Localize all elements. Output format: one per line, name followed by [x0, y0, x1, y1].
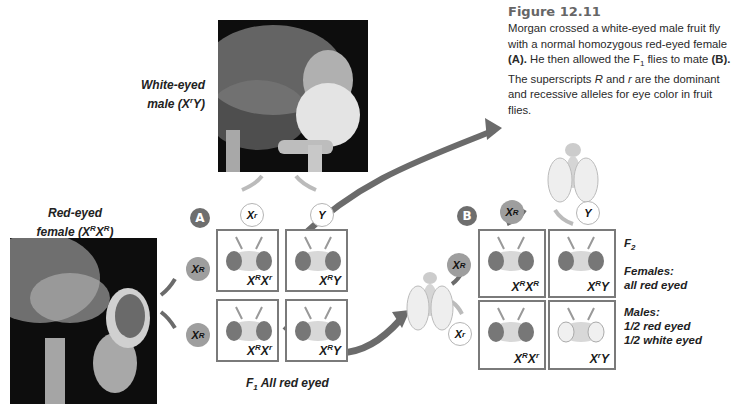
- genotype: XRY: [319, 273, 341, 288]
- genotype: XRXR: [511, 279, 539, 294]
- allele-circle-red: XR: [186, 257, 210, 281]
- genotype: XRXr: [514, 351, 539, 366]
- label-line: all red eyed: [624, 278, 687, 292]
- punnett-cell-a4: XRY: [285, 299, 348, 362]
- fly-head-red-icon: [224, 305, 274, 345]
- f2-label: F2: [624, 236, 635, 255]
- label-line: 1/2 red eyed: [624, 319, 702, 333]
- fly-head-red-icon: [556, 235, 606, 275]
- punnett-cell-a3: XRXr: [216, 299, 279, 362]
- allele-circle-red: XR: [186, 323, 210, 347]
- punnett-cell-b4: XrY: [548, 300, 616, 370]
- allele-circle-white: Xr: [448, 322, 472, 346]
- punnett-cell-b2: XRY: [548, 229, 616, 298]
- fly-head-red-icon: [293, 305, 343, 345]
- genotype: XRY: [587, 279, 609, 294]
- allele-circle-white: Xr: [240, 203, 264, 227]
- allele-circle-red: XR: [500, 200, 524, 224]
- fly-head-red-icon: [486, 235, 536, 275]
- allele-circle-white: Y: [310, 203, 334, 227]
- genotype: XRXr: [247, 343, 272, 358]
- cross-a-badge: A: [190, 208, 210, 228]
- f1-fly-icon: [405, 262, 455, 340]
- label-line: Males:: [624, 305, 702, 319]
- fly-head-red-icon: [293, 235, 343, 275]
- genotype: XrY: [590, 351, 609, 366]
- f1-result-label: F1 All red eyed: [246, 376, 329, 395]
- fly-head-white-icon: [556, 306, 606, 346]
- genotype: XRY: [319, 343, 341, 358]
- f1-fly-icon: [545, 132, 601, 212]
- f2-females-result: Females: all red eyed: [624, 264, 687, 292]
- allele-circle-red: XR: [447, 253, 471, 277]
- f2-males-result: Males: 1/2 red eyed 1/2 white eyed: [624, 305, 702, 347]
- fly-head-red-icon: [486, 306, 536, 346]
- label-line: Females:: [624, 264, 687, 278]
- label-line: 1/2 white eyed: [624, 333, 702, 347]
- genotype: XRXr: [247, 273, 272, 288]
- punnett-cell-a1: XRXr: [216, 229, 279, 292]
- cross-b-badge: B: [457, 206, 477, 226]
- punnett-cell-b1: XRXR: [478, 229, 546, 298]
- punnett-cell-b3: XRXr: [478, 300, 546, 370]
- punnett-cell-a2: XRY: [285, 229, 348, 292]
- fly-head-red-icon: [224, 235, 274, 275]
- allele-circle-white: Y: [576, 201, 600, 225]
